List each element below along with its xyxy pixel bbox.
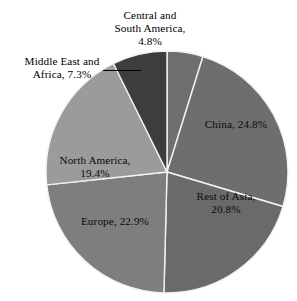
slice-label-central-and-south-america: Central and South America, 4.8% bbox=[86, 9, 214, 49]
slice-label-north-america: North America, 19.4% bbox=[36, 154, 154, 180]
slice-label-middle-east-and-africa: Middle East and Africa, 7.3% bbox=[0, 55, 124, 81]
pie-chart-figure: Central and South America, 4.8% Middle E… bbox=[0, 0, 297, 301]
slice-label-china: China, 24.8% bbox=[184, 118, 288, 131]
slice-label-europe: Europe, 22.9% bbox=[56, 215, 174, 228]
leader-line-middle-east-and-africa bbox=[103, 70, 141, 71]
pie-slice-europe[interactable] bbox=[47, 172, 167, 293]
slice-label-rest-of-asia: Rest of Asia, 20.8% bbox=[176, 190, 276, 216]
